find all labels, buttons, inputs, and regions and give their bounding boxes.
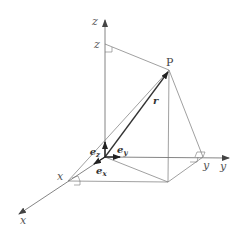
y-axis [105, 157, 229, 158]
z-coord-label: z [93, 38, 100, 51]
x-axis [19, 157, 105, 214]
right-angle-marks [72, 47, 205, 185]
y-axis-label: y [219, 160, 227, 173]
x-axis-label: x [20, 214, 27, 227]
x-coord-label: x [57, 170, 64, 183]
projection-lines [68, 44, 203, 182]
y-coord-label: y [202, 159, 210, 172]
z-axis-label: z [91, 15, 98, 28]
unit-x-label: ex [96, 165, 107, 178]
coordinate-diagram: z z P r ez ey ex x x y y [0, 0, 243, 236]
point-p-label: P [166, 56, 174, 69]
unit-z-label: ez [90, 146, 101, 159]
position-vector-r [105, 72, 168, 157]
unit-y-label: ey [117, 144, 128, 157]
vector-r-label: r [153, 95, 159, 106]
